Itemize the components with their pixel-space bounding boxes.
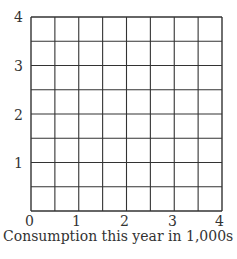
x-axis-label: Consumption this year in 1,000s [0, 228, 237, 244]
x-tick-3: 3 [168, 214, 177, 228]
x-tick-2: 2 [120, 214, 129, 228]
x-tick-4: 4 [215, 214, 224, 228]
chart-area: 4 3 2 1 0 1 2 3 4 Consumption this year … [0, 0, 237, 259]
y-tick-3: 3 [14, 59, 23, 73]
grid [0, 0, 237, 259]
x-tick-0: 0 [25, 214, 34, 228]
x-tick-1: 1 [72, 214, 81, 228]
y-tick-1: 1 [14, 156, 23, 170]
y-tick-2: 2 [14, 108, 23, 122]
y-tick-4: 4 [14, 10, 23, 24]
